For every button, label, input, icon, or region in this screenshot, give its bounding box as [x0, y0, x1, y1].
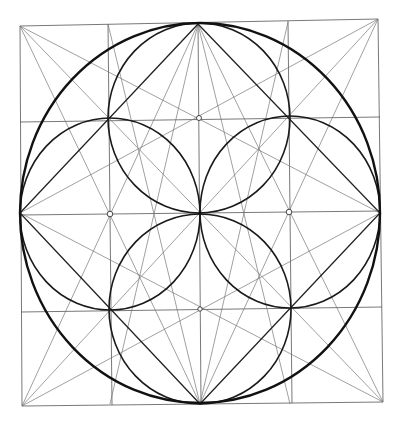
point-right: [286, 209, 292, 215]
point-left: [107, 211, 113, 217]
point-bottom: [198, 307, 202, 311]
center-point: [198, 211, 202, 215]
point-top: [197, 116, 202, 121]
geometric-construction-diagram: Geometric construction: circle in square…: [0, 0, 400, 425]
